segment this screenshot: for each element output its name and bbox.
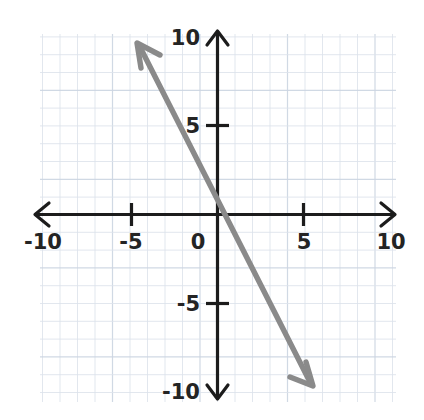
x-label-zero: 0 [191,230,206,254]
coordinate-plane-graph: -10 -5 0 5 10 10 5 -5 -10 [0,0,424,420]
x-label-pos10: 10 [376,230,405,254]
y-label-neg5: -5 [177,292,200,316]
graph-canvas: -10 -5 0 5 10 10 5 -5 -10 [0,0,424,420]
y-label-pos10: 10 [171,26,200,50]
y-label-neg10: -10 [162,380,200,404]
x-label-neg10: -10 [24,230,62,254]
x-axis [35,203,395,226]
y-label-pos5: 5 [185,114,200,138]
x-label-pos5: 5 [297,230,312,254]
x-label-neg5: -5 [119,230,142,254]
